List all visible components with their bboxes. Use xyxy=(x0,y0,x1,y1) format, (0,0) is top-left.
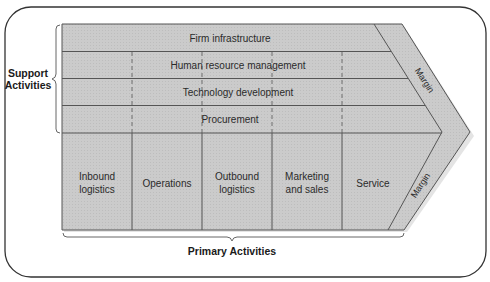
primary-activities-label: Primary Activities xyxy=(188,245,276,257)
support-activity-firm-infrastructure: Firm infrastructure xyxy=(189,33,271,44)
primary-activity-marketing-sales-line1: Marketing xyxy=(285,171,329,182)
primary-activity-service: Service xyxy=(356,178,390,189)
support-activities-label-line2: Activities xyxy=(5,79,52,91)
value-chain-shape xyxy=(62,24,470,230)
primary-activity-outbound-logistics-line2: logistics xyxy=(219,184,255,195)
support-activity-technology-development: Technology development xyxy=(183,87,294,98)
support-activity-procurement: Procurement xyxy=(201,114,258,125)
primary-activity-inbound-logistics-line2: logistics xyxy=(79,184,115,195)
support-activity-hr-management: Human resource management xyxy=(170,60,305,71)
support-activities-label-line1: Support xyxy=(8,67,49,79)
primary-activity-outbound-logistics-line1: Outbound xyxy=(215,171,259,182)
primary-activity-marketing-sales-line2: and sales xyxy=(286,184,329,195)
value-chain-diagram: Firm infrastructure Human resource manag… xyxy=(0,0,490,282)
primary-activity-inbound-logistics-line1: Inbound xyxy=(79,171,115,182)
primary-activity-operations: Operations xyxy=(143,178,192,189)
